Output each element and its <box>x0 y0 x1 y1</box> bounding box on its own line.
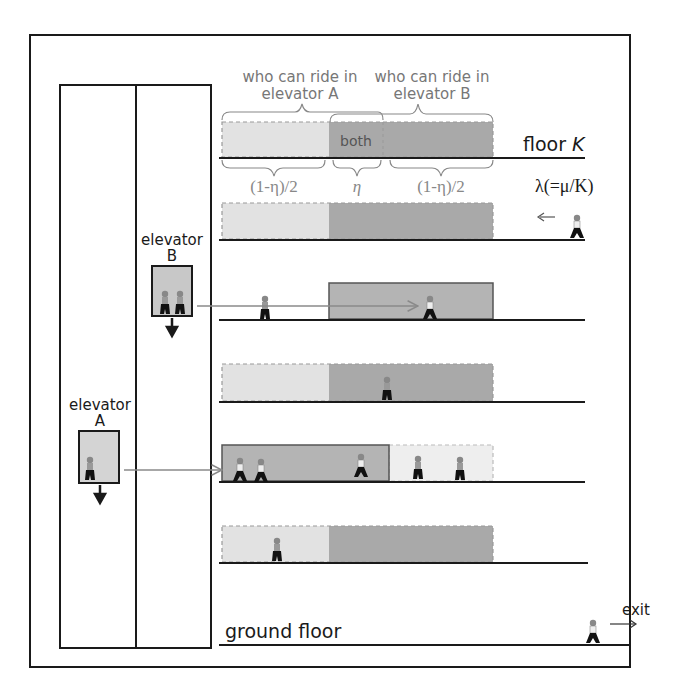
svg-text:who can ride in: who can ride in <box>243 68 358 86</box>
frac-right-label: (1-η)/2 <box>417 177 465 196</box>
elevator-b-down-arrow-icon <box>167 318 177 336</box>
annotation-who-b: who can ride in elevator B <box>375 68 490 103</box>
elevator-b-letter: B <box>167 247 177 265</box>
elevator-diagram: who can ride in elevator A who can ride … <box>0 0 681 698</box>
arriving-passenger-icon <box>570 215 584 238</box>
elevator-a-letter: A <box>95 412 106 430</box>
floor-k-zone-a <box>222 122 329 157</box>
floor-6-zone-both <box>329 526 493 562</box>
brace-frac-left <box>222 160 325 176</box>
svg-text:elevator B: elevator B <box>394 85 471 103</box>
frac-left-label: (1-η)/2 <box>250 177 298 196</box>
floor-5-zone-b <box>389 445 493 481</box>
exiting-passenger-icon <box>586 620 600 643</box>
elevator-b-car <box>152 266 192 316</box>
both-label: both <box>340 133 372 149</box>
elevator-a-car <box>79 431 119 483</box>
brace-who-b <box>330 104 493 122</box>
exit-label: exit <box>622 601 650 619</box>
annotation-who-a: who can ride in elevator A <box>243 68 358 103</box>
floor-2-zone-a <box>222 203 329 239</box>
brace-who-a <box>222 104 383 120</box>
ground-floor-label: ground floor <box>225 620 341 642</box>
floor-3-highlight-box <box>329 283 493 319</box>
svg-text:who can ride in: who can ride in <box>375 68 490 86</box>
floor-k-label: floor K <box>523 133 586 155</box>
elevator-a-down-arrow-icon <box>95 485 105 503</box>
brace-frac-right <box>390 160 493 176</box>
floor-2-zone-both <box>329 203 493 239</box>
floor-4-zone-a <box>222 364 329 401</box>
eta-label: η <box>353 177 361 196</box>
svg-text:elevator A: elevator A <box>262 85 340 103</box>
brace-eta <box>333 160 381 176</box>
lambda-label: λ(=μ/K) <box>535 176 594 197</box>
floor-4-zone-both <box>329 364 493 401</box>
floor-3-passenger-icon <box>260 296 270 319</box>
